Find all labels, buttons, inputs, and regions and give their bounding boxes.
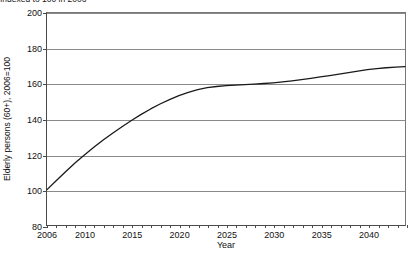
x-tick-2007 [56, 225, 57, 228]
line-series [47, 13, 405, 225]
x-tick-2012 [104, 225, 105, 228]
x-tick-2009 [75, 225, 76, 228]
x-tick-2039 [360, 225, 361, 228]
x-tick-label-2040: 2040 [359, 230, 379, 240]
y-tick-label-200: 200 [27, 8, 42, 18]
x-tick-2008 [66, 225, 67, 228]
x-tick-2041 [379, 225, 380, 228]
x-tick-2026 [236, 225, 237, 228]
x-tick-label-2015: 2015 [122, 230, 142, 240]
x-tick-2042 [388, 225, 389, 228]
x-tick-2036 [331, 225, 332, 228]
x-axis-title: Year [217, 240, 235, 250]
y-tick-label-180: 180 [27, 44, 42, 54]
x-tick-label-2030: 2030 [264, 230, 284, 240]
x-tick-label-2035: 2035 [312, 230, 332, 240]
x-tick-2043 [398, 225, 399, 228]
x-tick-2040 [369, 225, 370, 228]
chart-caption: Indexed to 100 in 2006 [0, 0, 200, 6]
x-tick-2016 [142, 225, 143, 228]
y-tick-label-140: 140 [27, 115, 42, 125]
x-tick-2019 [170, 225, 171, 228]
x-tick-2010 [85, 225, 86, 228]
x-tick-label-2006: 2006 [37, 230, 57, 240]
x-tick-label-2025: 2025 [217, 230, 237, 240]
x-tick-2020 [180, 225, 181, 228]
plot-area: 80100120140160180200 2006201020152020202… [46, 12, 406, 226]
chart-screenshot: Indexed to 100 in 2006 80100120140160180… [0, 0, 414, 259]
y-axis-title: Elderly persons (60+), 2006=100 [2, 57, 12, 181]
x-tick-2035 [322, 225, 323, 228]
x-tick-2030 [274, 225, 275, 228]
x-tick-2034 [312, 225, 313, 228]
x-tick-2025 [227, 225, 228, 228]
chart-caption-text: Indexed to 100 in 2006 [0, 0, 200, 4]
x-tick-2013 [113, 225, 114, 228]
series-line-0 [47, 67, 405, 190]
y-tick-label-160: 160 [27, 79, 42, 89]
x-tick-label-2020: 2020 [170, 230, 190, 240]
x-tick-2011 [94, 225, 95, 228]
x-tick-2027 [246, 225, 247, 228]
x-tick-2017 [151, 225, 152, 228]
y-tick-label-100: 100 [27, 186, 42, 196]
x-tick-2033 [303, 225, 304, 228]
x-tick-2023 [208, 225, 209, 228]
x-tick-2029 [265, 225, 266, 228]
x-tick-2037 [341, 225, 342, 228]
x-tick-2044 [407, 225, 408, 228]
x-tick-2038 [350, 225, 351, 228]
x-tick-2006 [47, 225, 48, 228]
x-tick-2031 [284, 225, 285, 228]
x-tick-2015 [132, 225, 133, 228]
y-tick-label-120: 120 [27, 151, 42, 161]
x-tick-2028 [255, 225, 256, 228]
x-tick-2022 [199, 225, 200, 228]
x-tick-2014 [123, 225, 124, 228]
x-tick-2018 [161, 225, 162, 228]
x-tick-label-2010: 2010 [75, 230, 95, 240]
x-tick-2021 [189, 225, 190, 228]
x-tick-2032 [293, 225, 294, 228]
x-tick-2024 [218, 225, 219, 228]
